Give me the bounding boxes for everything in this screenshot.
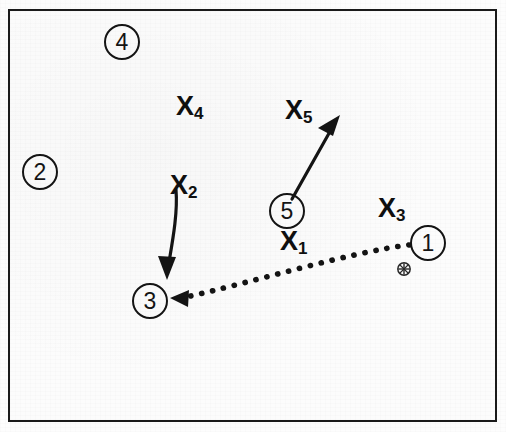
x-marker-4-base: X — [176, 91, 194, 121]
cut-arrow-x2 — [158, 190, 176, 280]
x-marker-2[interactable]: X2 — [170, 172, 197, 199]
player-marker-4[interactable]: 4 — [104, 24, 140, 60]
player-marker-5[interactable]: 5 — [269, 193, 305, 229]
x-marker-2-base: X — [170, 170, 188, 200]
x-marker-1-base: X — [280, 226, 298, 256]
player-marker-1[interactable]: 1 — [410, 225, 446, 261]
x-marker-5-base: X — [285, 95, 303, 125]
x-marker-4-sub: 4 — [194, 104, 203, 123]
cut-arrow-player5 — [292, 115, 340, 199]
x-marker-3-base: X — [378, 193, 396, 223]
x-marker-2-sub: 2 — [188, 183, 197, 202]
x-marker-1[interactable]: X1 — [280, 228, 307, 255]
x-marker-5-sub: 5 — [303, 108, 312, 127]
x-marker-4[interactable]: X4 — [176, 93, 203, 120]
ball-symbol — [398, 263, 410, 275]
x-marker-3-sub: 3 — [396, 206, 405, 225]
player-label-3: 3 — [144, 290, 157, 313]
player-label-5: 5 — [281, 200, 294, 223]
diagram-overlay — [0, 0, 506, 432]
diagram-page: 4 2 5 1 3 X4 X5 X2 X3 X1 — [0, 0, 506, 432]
player-marker-2[interactable]: 2 — [22, 154, 58, 190]
x-marker-5[interactable]: X5 — [285, 97, 312, 124]
player-marker-3[interactable]: 3 — [132, 283, 168, 319]
x-marker-3[interactable]: X3 — [378, 195, 405, 222]
x-marker-1-sub: 1 — [298, 239, 307, 258]
player-label-2: 2 — [34, 161, 47, 184]
player-label-4: 4 — [116, 31, 129, 54]
player-label-1: 1 — [422, 232, 435, 255]
